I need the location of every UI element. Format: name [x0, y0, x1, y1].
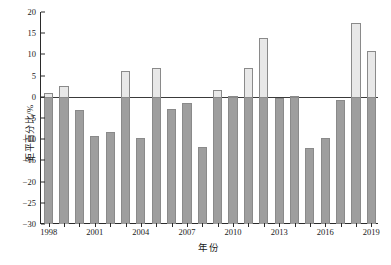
- x-axis-tick-label: 2007: [178, 228, 195, 237]
- zero-reference-line: [41, 97, 378, 98]
- bar: [106, 132, 115, 224]
- bar: [90, 136, 99, 224]
- y-axis-tick-mark: [41, 54, 45, 55]
- x-axis-tick-mark: [126, 223, 127, 227]
- bar: [152, 68, 161, 97]
- bar-segment-below-zero: [259, 97, 268, 224]
- y-axis-tick-label: 10: [28, 50, 42, 59]
- x-axis-tick-mark: [64, 223, 65, 227]
- x-axis-tick-label: 2004: [132, 228, 149, 237]
- bar-segment-below-zero: [44, 97, 53, 224]
- x-axis-tick-label: 2010: [225, 228, 242, 237]
- y-axis-tick-mark: [41, 160, 45, 161]
- bar: [351, 23, 360, 96]
- x-axis-tick-label: 2001: [86, 228, 103, 237]
- bar-segment-below-zero: [244, 97, 253, 224]
- x-axis-tick-mark: [172, 223, 173, 227]
- bar: [182, 103, 191, 224]
- plot-area: 20151050−5−10−15−20−25−30 19982001200420…: [40, 12, 378, 224]
- bar-segment-below-zero: [228, 97, 237, 224]
- y-axis-tick-label: 0: [32, 93, 41, 102]
- bar: [290, 96, 299, 97]
- x-axis-tick-mark: [248, 223, 249, 227]
- x-axis-tick-mark: [156, 223, 157, 227]
- y-axis-tick-label: −15: [23, 156, 41, 165]
- x-axis-tick-mark: [264, 223, 265, 227]
- x-axis-title: 年份: [40, 240, 378, 254]
- y-axis-tick-mark: [41, 118, 45, 119]
- x-axis-tick-mark: [356, 223, 357, 227]
- x-axis-tick-label: 2019: [363, 228, 380, 237]
- bar-segment-below-zero: [351, 97, 360, 224]
- bar: [367, 51, 376, 96]
- bar-segment-below-zero: [290, 97, 299, 224]
- y-axis-tick-mark: [41, 139, 45, 140]
- x-axis-tick-mark: [218, 223, 219, 227]
- y-axis-tick-mark: [41, 224, 45, 225]
- x-axis-tick-label: 1998: [40, 228, 57, 237]
- x-axis-tick-mark: [202, 223, 203, 227]
- x-axis-tick-mark: [110, 223, 111, 227]
- bar: [321, 138, 330, 224]
- bar: [275, 98, 284, 224]
- chart-figure: 距平百分比/% 20151050−5−10−15−20−25−30 199820…: [0, 0, 391, 265]
- y-axis-tick-mark: [41, 33, 45, 34]
- bar: [44, 93, 53, 97]
- bar: [121, 71, 130, 97]
- bar-segment-below-zero: [59, 97, 68, 224]
- bar: [305, 148, 314, 224]
- y-axis-tick-label: 5: [32, 71, 41, 80]
- bar-segment-below-zero: [367, 97, 376, 224]
- y-axis-tick-mark: [41, 96, 45, 97]
- bar: [259, 38, 268, 97]
- x-axis-tick-label: 2016: [317, 228, 334, 237]
- bar: [336, 100, 345, 224]
- bar: [244, 68, 253, 97]
- y-axis-tick-mark: [41, 181, 45, 182]
- bar-segment-below-zero: [121, 97, 130, 224]
- y-axis-tick-label: 15: [28, 29, 42, 38]
- bar: [198, 147, 207, 224]
- y-axis-tick-mark: [41, 12, 45, 13]
- bar: [228, 96, 237, 97]
- x-axis-tick-label: 2013: [271, 228, 288, 237]
- y-axis-tick-label: −25: [23, 199, 41, 208]
- y-axis-tick-mark: [41, 202, 45, 203]
- bar-segment-below-zero: [152, 97, 161, 224]
- x-axis-tick-mark: [310, 223, 311, 227]
- bar-segment-below-zero: [213, 97, 222, 224]
- y-axis-tick-label: −5: [27, 114, 41, 123]
- x-axis-tick-mark: [79, 223, 80, 227]
- y-axis-tick-label: −10: [23, 135, 41, 144]
- y-axis-tick-label: −20: [23, 177, 41, 186]
- x-axis-tick-mark: [295, 223, 296, 227]
- bar: [75, 110, 84, 224]
- bar: [136, 138, 145, 224]
- y-axis-tick-label: −30: [23, 220, 41, 229]
- y-axis-tick-mark: [41, 75, 45, 76]
- bar: [167, 109, 176, 224]
- x-axis-tick-mark: [341, 223, 342, 227]
- bar: [213, 90, 222, 96]
- y-axis-tick-label: 20: [28, 8, 42, 17]
- bar: [59, 86, 68, 97]
